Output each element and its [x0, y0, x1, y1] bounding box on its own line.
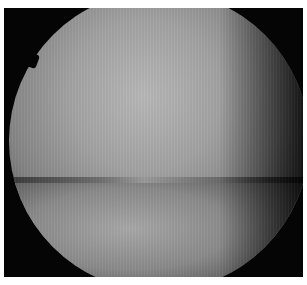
arthroscope-field: [9, 8, 303, 277]
image-frame: [4, 8, 303, 277]
scan-lines: [9, 8, 303, 277]
